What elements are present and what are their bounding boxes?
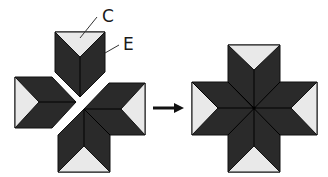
label-c: C	[102, 6, 114, 26]
quilt-diagram: C E	[0, 0, 328, 177]
left-arm-piece	[15, 77, 76, 128]
assembled-star-figure	[192, 45, 317, 172]
label-e: E	[123, 34, 134, 54]
arrow-right-icon	[153, 103, 184, 113]
e-leader-line	[105, 45, 119, 53]
separated-pieces-figure: C E	[15, 6, 145, 172]
